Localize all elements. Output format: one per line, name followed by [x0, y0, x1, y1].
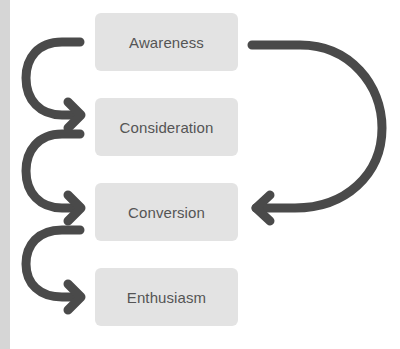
curved-arrow-icon — [26, 134, 81, 221]
curved-arrow-icon — [252, 45, 382, 221]
curved-arrow-icon — [26, 42, 81, 128]
flow-arrows — [0, 0, 400, 349]
curved-arrow-icon — [26, 230, 81, 310]
